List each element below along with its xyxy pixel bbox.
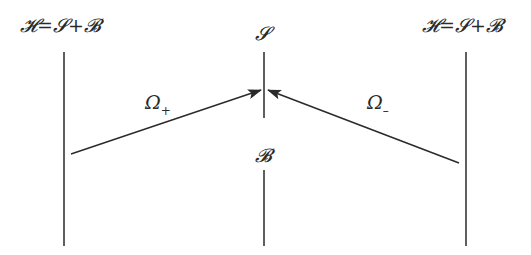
right-space-label: 𝓗=𝓢+𝓑 [422, 16, 503, 35]
omega-minus-arrow [268, 90, 459, 163]
omega-minus-symbol: Ω [367, 91, 383, 113]
omega-minus-subscript: – [383, 104, 389, 118]
left-space-label: 𝓗=𝓢+𝓑 [20, 16, 101, 35]
scattering-subspace-label: 𝓢 [255, 24, 270, 43]
bound-subspace-label: 𝓑 [255, 146, 272, 165]
omega-minus-label: Ω– [367, 93, 389, 112]
omega-plus-label: Ω+ [145, 93, 171, 112]
omega-plus-subscript: + [161, 104, 171, 118]
omega-plus-symbol: Ω [145, 91, 161, 113]
